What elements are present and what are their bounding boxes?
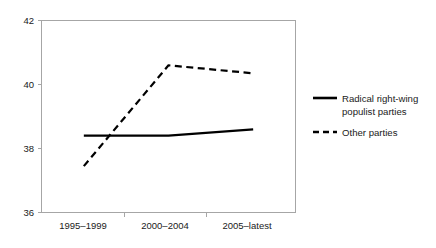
y-tick-label-40: 40 xyxy=(23,79,34,90)
x-tick-label-1995-1999: 1995–1999 xyxy=(59,220,107,231)
chart-canvas: 36 38 40 42 1995–1999 2000–2004 2005–lat… xyxy=(0,0,436,248)
series-line-radical-right-wing-populist-parties xyxy=(84,129,253,135)
x-tick-label-2000-2004: 2000–2004 xyxy=(141,220,189,231)
y-tick-label-38: 38 xyxy=(23,143,34,154)
legend-item-radical-right-wing-populist-parties[interactable]: Radical right-wing populist parties xyxy=(313,93,418,117)
legend-label-rrwp-line1: Radical right-wing xyxy=(342,93,418,104)
series-line-other-parties xyxy=(84,65,253,166)
legend-label-other-parties: Other parties xyxy=(342,127,398,138)
legend-label-rrwp-line2: populist parties xyxy=(342,106,407,117)
legend-item-other-parties[interactable]: Other parties xyxy=(313,127,398,138)
line-chart: 36 38 40 42 1995–1999 2000–2004 2005–lat… xyxy=(0,0,436,248)
y-tick-label-36: 36 xyxy=(23,207,34,218)
legend: Radical right-wing populist parties Othe… xyxy=(313,93,418,138)
y-tick-label-42: 42 xyxy=(23,15,34,26)
x-tick-label-2005-latest: 2005–latest xyxy=(222,220,271,231)
